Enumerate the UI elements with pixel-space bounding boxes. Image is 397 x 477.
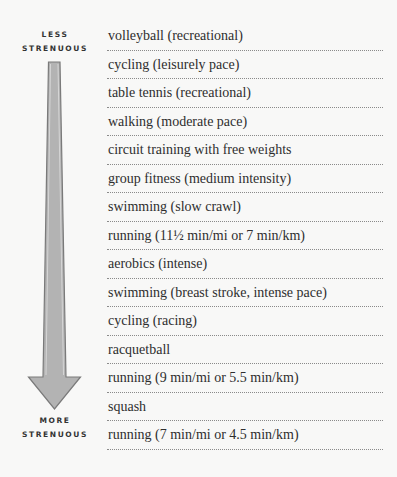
list-item: running (9 min/mi or 5.5 min/km) xyxy=(107,364,383,393)
list-item: cycling (leisurely pace) xyxy=(107,51,383,80)
list-item: volleyball (recreational) xyxy=(107,22,383,51)
list-item: cycling (racing) xyxy=(107,307,383,336)
list-item: running (7 min/mi or 4.5 min/km) xyxy=(107,421,383,450)
label-more: MORE xyxy=(14,414,96,428)
list-item: squash xyxy=(107,393,383,422)
list-item: table tennis (recreational) xyxy=(107,79,383,108)
list-item: circuit training with free weights xyxy=(107,136,383,165)
activity-list: volleyball (recreational) cycling (leisu… xyxy=(107,22,383,450)
label-strenuous-bottom: STRENUOUS xyxy=(14,428,96,442)
list-item: swimming (breast stroke, intense pace) xyxy=(107,279,383,308)
list-item: aerobics (intense) xyxy=(107,250,383,279)
list-item: running (11½ min/mi or 7 min/km) xyxy=(107,222,383,251)
down-arrow-icon xyxy=(0,0,100,477)
more-strenuous-label: MORE STRENUOUS xyxy=(14,414,96,442)
list-item: walking (moderate pace) xyxy=(107,108,383,137)
list-item: racquetball xyxy=(107,336,383,365)
list-item: swimming (slow crawl) xyxy=(107,193,383,222)
list-item: group fitness (medium intensity) xyxy=(107,165,383,194)
